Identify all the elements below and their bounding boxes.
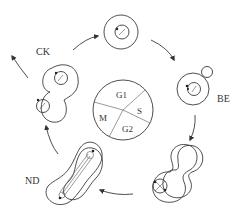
spindle-2	[40, 103, 45, 109]
spb-dot	[186, 85, 189, 88]
spindle	[192, 86, 196, 92]
arrow-be-to-bud-growth	[190, 115, 195, 140]
arrow-ck-exit	[12, 56, 28, 78]
nuclear-division-cell	[46, 142, 102, 204]
cell-membrane	[63, 148, 102, 200]
phase-label-s: S	[137, 106, 142, 116]
phase-wheel: G1 S G2 M	[93, 80, 153, 140]
spb-dot-2	[187, 88, 189, 90]
arrow-ck-to-g1	[73, 36, 98, 50]
spindle-1	[58, 75, 63, 81]
cell-membrane	[177, 73, 209, 105]
stage-label-nd: ND	[25, 175, 39, 186]
arrow-g1-to-be	[151, 40, 174, 60]
stage-label-be: BE	[217, 93, 230, 104]
arrow-nd-to-ck	[46, 126, 58, 154]
divider-g2-m	[109, 110, 123, 137]
arrow-bud-growth-to-nd	[100, 190, 133, 195]
spb-dot-2	[92, 150, 95, 153]
cytokinesis-cell	[37, 65, 79, 122]
phase-label-m: M	[99, 113, 107, 123]
spb-dot-2	[37, 99, 39, 101]
spb-dot-1	[55, 72, 57, 74]
cell-cycle-diagram: G1 S G2 M BE	[0, 0, 242, 212]
bud	[202, 67, 213, 78]
spb-dot	[59, 197, 62, 200]
g1-cell	[104, 15, 138, 49]
bud-emergence-cell	[177, 67, 213, 106]
stage-label-ck: CK	[36, 46, 51, 57]
spindle-pole-body	[119, 29, 125, 35]
spb-dot-2	[164, 189, 167, 192]
nucleus-2	[37, 100, 50, 113]
cell-membrane	[104, 15, 138, 49]
spindle	[62, 156, 90, 194]
spb-dot	[154, 181, 157, 184]
phase-label-g2: G2	[122, 124, 133, 134]
spb-dot	[116, 28, 118, 30]
divider-g1-m	[94, 102, 123, 110]
phase-label-g1: G1	[116, 90, 127, 100]
cell-membrane	[41, 65, 78, 122]
